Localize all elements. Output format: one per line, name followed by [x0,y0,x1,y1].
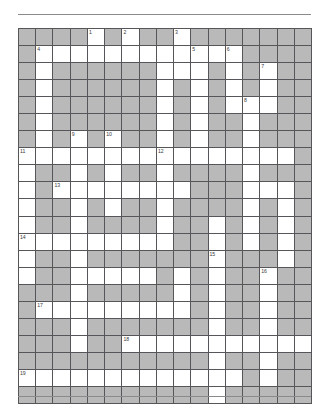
crossword-cell-open[interactable] [19,267,36,284]
crossword-cell-open[interactable]: 17 [36,301,53,318]
crossword-grid[interactable]: 12345678910111213141516171819 [18,28,312,404]
crossword-cell-open[interactable] [53,369,70,386]
crossword-cell-open[interactable] [70,182,87,199]
crossword-cell-open[interactable] [277,148,294,165]
crossword-cell-open[interactable] [156,335,173,352]
crossword-cell-open[interactable] [139,233,156,250]
crossword-cell-open[interactable] [243,182,260,199]
crossword-cell-open[interactable] [53,46,70,63]
crossword-cell-open[interactable]: 12 [156,148,173,165]
crossword-cell-open[interactable] [174,284,191,301]
crossword-cell-open[interactable] [208,267,225,284]
crossword-cell-open[interactable]: 13 [53,182,70,199]
crossword-cell-open[interactable] [208,148,225,165]
crossword-cell-open[interactable] [122,369,139,386]
crossword-cell-open[interactable] [243,335,260,352]
crossword-cell-open[interactable] [87,301,104,318]
crossword-cell-open[interactable]: 5 [191,46,208,63]
crossword-cell-open[interactable]: 9 [70,131,87,148]
crossword-cell-open[interactable] [70,301,87,318]
crossword-cell-open[interactable] [139,267,156,284]
crossword-cell-open[interactable] [122,46,139,63]
crossword-cell-open[interactable]: 18 [122,335,139,352]
crossword-cell-open[interactable] [70,335,87,352]
crossword-cell-open[interactable] [156,114,173,131]
crossword-cell-open[interactable]: 19 [19,369,36,386]
crossword-cell-open[interactable] [208,46,225,63]
crossword-cell-open[interactable] [156,233,173,250]
crossword-cell-open[interactable]: 7 [260,63,277,80]
crossword-cell-open[interactable] [36,114,53,131]
crossword-cell-open[interactable] [70,250,87,267]
crossword-cell-open[interactable] [260,97,277,114]
crossword-cell-open[interactable] [225,63,242,80]
crossword-cell-open[interactable]: 15 [208,250,225,267]
crossword-cell-open[interactable] [243,131,260,148]
crossword-cell-open[interactable] [139,148,156,165]
crossword-cell-open[interactable] [191,114,208,131]
crossword-cell-open[interactable] [122,233,139,250]
crossword-cell-open[interactable] [156,199,173,216]
crossword-cell-open[interactable] [260,301,277,318]
crossword-cell-open[interactable] [225,335,242,352]
crossword-cell-open[interactable] [225,369,242,386]
crossword-cell-open[interactable]: 4 [36,46,53,63]
crossword-cell-open[interactable] [53,301,70,318]
crossword-cell-open[interactable] [191,97,208,114]
crossword-cell-open[interactable] [208,233,225,250]
crossword-cell-open[interactable] [174,335,191,352]
crossword-cell-open[interactable] [208,352,225,369]
crossword-cell-open[interactable] [105,165,122,182]
crossword-cell-open[interactable]: 2 [122,29,139,46]
crossword-cell-open[interactable] [156,63,173,80]
crossword-cell-open[interactable] [156,46,173,63]
crossword-cell-open[interactable] [260,318,277,335]
crossword-cell-open[interactable] [243,199,260,216]
crossword-cell-open[interactable] [156,369,173,386]
crossword-cell-open[interactable] [122,182,139,199]
crossword-cell-open[interactable] [70,369,87,386]
crossword-cell-open[interactable] [208,369,225,386]
crossword-cell-open[interactable] [260,352,277,369]
crossword-cell-open[interactable] [208,284,225,301]
crossword-cell-open[interactable] [156,131,173,148]
crossword-cell-open[interactable] [139,335,156,352]
crossword-cell-open[interactable] [260,284,277,301]
crossword-cell-open[interactable] [277,199,294,216]
crossword-cell-open[interactable] [208,318,225,335]
crossword-cell-open[interactable] [36,233,53,250]
crossword-cell-open[interactable] [70,284,87,301]
crossword-cell-open[interactable] [156,182,173,199]
crossword-cell-open[interactable] [53,233,70,250]
crossword-cell-open[interactable] [156,165,173,182]
crossword-cell-open[interactable] [105,148,122,165]
crossword-cell-open[interactable] [70,165,87,182]
crossword-cell-open[interactable] [208,386,225,403]
crossword-cell-open[interactable] [260,369,277,386]
crossword-cell-open[interactable] [225,80,242,97]
crossword-cell-open[interactable] [277,250,294,267]
crossword-cell-open[interactable] [19,250,36,267]
crossword-cell-open[interactable]: 10 [105,131,122,148]
crossword-cell-open[interactable] [174,46,191,63]
crossword-cell-open[interactable] [70,148,87,165]
crossword-cell-open[interactable] [87,46,104,63]
crossword-cell-open[interactable] [19,199,36,216]
crossword-cell-open[interactable] [139,301,156,318]
crossword-cell-open[interactable] [70,216,87,233]
crossword-cell-open[interactable] [19,182,36,199]
crossword-cell-open[interactable] [105,301,122,318]
crossword-cell-open[interactable] [277,233,294,250]
crossword-cell-open[interactable] [191,369,208,386]
crossword-cell-open[interactable] [277,216,294,233]
crossword-cell-open[interactable]: 6 [225,46,242,63]
crossword-cell-open[interactable] [87,148,104,165]
crossword-cell-open[interactable] [105,199,122,216]
crossword-cell-open[interactable] [243,165,260,182]
crossword-cell-open[interactable] [294,335,311,352]
crossword-cell-open[interactable]: 16 [260,267,277,284]
crossword-cell-open[interactable] [122,148,139,165]
crossword-cell-open[interactable] [243,233,260,250]
crossword-cell-open[interactable] [122,267,139,284]
crossword-cell-open[interactable] [87,182,104,199]
